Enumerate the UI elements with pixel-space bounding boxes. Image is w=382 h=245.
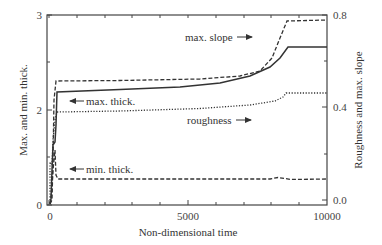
x-axis-title: Non-dimensional time xyxy=(139,226,238,238)
plot-frame xyxy=(47,15,327,205)
left-tick-3: 3 xyxy=(37,9,43,21)
x-axis-ticks xyxy=(49,15,299,205)
x-tick-10000: 10000 xyxy=(313,210,341,222)
right-axis-title: Roughness and max. slope xyxy=(352,51,364,168)
series-min-thick xyxy=(50,150,327,204)
x-tick-0: 0 xyxy=(47,210,53,222)
series-roughness xyxy=(50,93,327,203)
annotation-max-thick: max. thick. xyxy=(86,95,135,107)
left-tick-2: 2 xyxy=(37,104,43,116)
annotation-roughness: roughness xyxy=(187,114,232,126)
left-tick-0: 0 xyxy=(37,199,43,211)
right-tick-0.4: 0.4 xyxy=(333,101,347,113)
right-axis-ticks xyxy=(322,15,327,200)
x-tick-5000: 5000 xyxy=(177,210,200,222)
chart: 3 2 0 0.8 0.4 0.0 0 5000 10000 Non-dimen… xyxy=(0,0,382,245)
annotation-min-thick: min. thick. xyxy=(86,163,134,175)
left-axis-title: Max. and min. thick. xyxy=(17,64,29,156)
right-tick-0.0: 0.0 xyxy=(333,194,347,206)
annotation-max-slope: max. slope xyxy=(185,31,233,43)
right-tick-0.8: 0.8 xyxy=(333,9,347,21)
